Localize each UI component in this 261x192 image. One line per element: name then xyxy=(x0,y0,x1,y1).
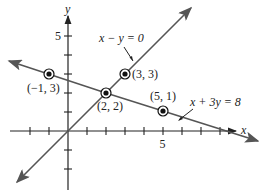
point-label-5-1: (5, 1) xyxy=(150,89,176,103)
point-2-2: (2, 2) xyxy=(97,88,123,113)
graph-svg: x 5 y 5 x − y = 0 xyxy=(0,0,261,192)
x-tick-label-5: 5 xyxy=(160,137,166,151)
point-3-3: (3, 3) xyxy=(120,67,158,81)
y-axis: y 5 xyxy=(55,2,72,190)
y-axis-label: y xyxy=(64,2,71,16)
point-5-1: (5, 1) xyxy=(150,89,176,116)
coordinate-plane-diagram: x 5 y 5 x − y = 0 xyxy=(0,0,261,192)
line-label-x-minus-y: x − y = 0 xyxy=(98,31,144,45)
point-label-2-2: (2, 2) xyxy=(97,99,123,113)
x-axis: x 5 xyxy=(10,123,247,151)
line-label-x-plus-3y: x + 3y = 8 xyxy=(189,95,241,109)
y-tick-label-5: 5 xyxy=(55,29,61,43)
point-label-3-3: (3, 3) xyxy=(132,67,158,81)
point-label-neg1-3: (−1, 3) xyxy=(27,81,60,95)
